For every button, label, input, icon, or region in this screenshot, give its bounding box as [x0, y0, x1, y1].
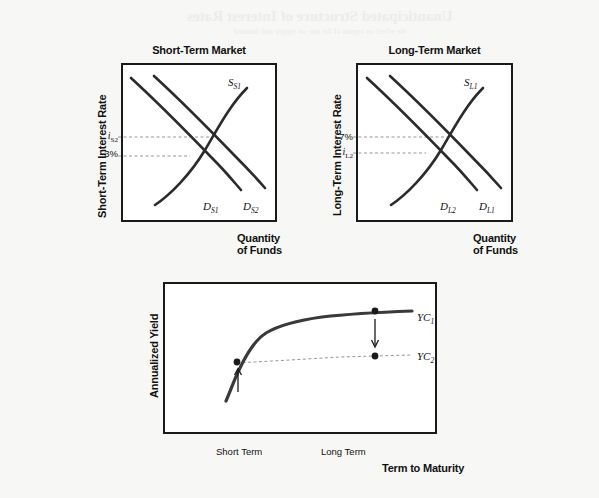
- curve-yc1-solid: [226, 311, 412, 401]
- marker-long-term-old-yield: [372, 308, 379, 315]
- marker-short-term-new-yield: [234, 359, 241, 366]
- curve-yc2-dashed: [237, 355, 412, 363]
- figure-page: Unanticipated Structure of Interest Rate…: [0, 0, 599, 498]
- svg-yield-curve: [0, 0, 599, 498]
- marker-long-term-new-yield: [372, 353, 379, 360]
